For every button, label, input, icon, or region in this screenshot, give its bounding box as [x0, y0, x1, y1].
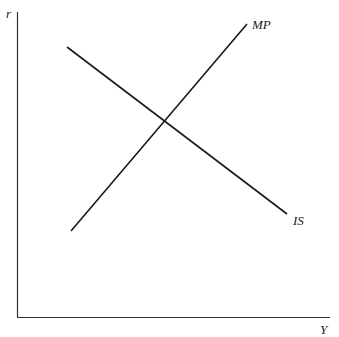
mp-curve	[71, 24, 247, 231]
y-axis-label: r	[6, 6, 12, 21]
is-curve	[67, 47, 287, 214]
mp-curve-label: MP	[251, 17, 271, 32]
is-curve-label: IS	[292, 213, 304, 228]
x-axis-label: Y	[320, 322, 329, 337]
is-mp-diagram: r Y IS MP	[0, 0, 339, 337]
